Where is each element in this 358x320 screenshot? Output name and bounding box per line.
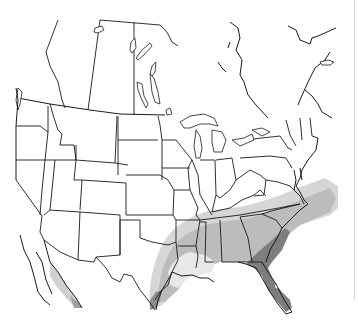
range-zone-core <box>158 188 336 302</box>
frame-edge-line <box>354 0 355 300</box>
canada-boundaries <box>18 20 336 118</box>
range-map <box>0 0 358 320</box>
chesapeake-bay <box>294 168 302 190</box>
great-lakes <box>180 114 270 158</box>
